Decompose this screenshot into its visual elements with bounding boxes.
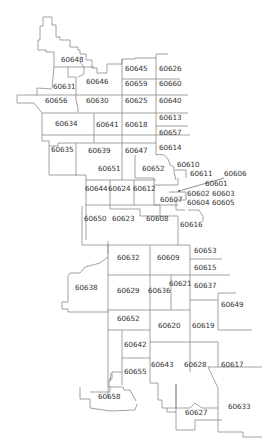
- zip-label-60640: 60640: [159, 97, 181, 104]
- zip-label-60649: 60649: [221, 301, 243, 308]
- zip-label-60607: 60607: [160, 196, 182, 203]
- zip-label-60604: 60604: [187, 199, 209, 206]
- zip-label-60616: 60616: [180, 221, 202, 228]
- zip-label-60626: 60626: [159, 65, 181, 72]
- zip-label-60634: 60634: [55, 120, 77, 127]
- zip-label-60643: 60643: [151, 361, 173, 368]
- zip-label-60642: 60642: [124, 341, 146, 348]
- zip-label-60632: 60632: [117, 254, 139, 261]
- zip-label-60628: 60628: [184, 361, 206, 368]
- zip-label-60644: 60644: [85, 185, 107, 192]
- zip-label-60627: 60627: [185, 409, 207, 416]
- zip-label-60636: 60636: [148, 287, 170, 294]
- zip-label-60658: 60658: [98, 393, 120, 400]
- zip-label-60652: 60652: [117, 315, 139, 322]
- zip-label-60660: 60660: [159, 80, 181, 87]
- zip-label-60648: 60648: [61, 56, 83, 63]
- zip-label-60652: 60652: [142, 165, 164, 172]
- zip-label-60651: 60651: [98, 165, 120, 172]
- zip-label-60619: 60619: [192, 322, 214, 329]
- zip-label-60612: 60612: [133, 185, 155, 192]
- zip-label-60637: 60637: [194, 282, 216, 289]
- zip-label-60601: 60601: [205, 180, 227, 187]
- zip-label-60630: 60630: [86, 97, 108, 104]
- zip-label-60647: 60647: [125, 147, 147, 154]
- zip-label-60620: 60620: [158, 322, 180, 329]
- zip-label-60610: 60610: [177, 161, 199, 168]
- zip-label-60603: 60603: [212, 190, 234, 197]
- zip-label-60623: 60623: [112, 215, 134, 222]
- zip-label-60631: 60631: [53, 83, 75, 90]
- zip-label-60621: 60621: [169, 280, 191, 287]
- zip-label-60646: 60646: [86, 78, 108, 85]
- zip-label-60605: 60605: [212, 199, 234, 206]
- zip-label-60655: 60655: [124, 368, 146, 375]
- zip-label-60618: 60618: [125, 121, 147, 128]
- leader-dot-60606: [178, 190, 180, 192]
- zip-label-60624: 60624: [108, 185, 130, 192]
- zip-label-60608: 60608: [146, 215, 168, 222]
- zip-label-60613: 60613: [159, 114, 181, 121]
- zip-label-60609: 60609: [157, 254, 179, 261]
- zip-label-60641: 60641: [96, 121, 118, 128]
- zip-label-60615: 60615: [194, 264, 216, 271]
- zip-label-60639: 60639: [88, 147, 110, 154]
- zip-label-60650: 60650: [84, 215, 106, 222]
- zip-label-60611: 60611: [190, 170, 212, 177]
- zip-label-60657: 60657: [159, 129, 181, 136]
- zip-label-60638: 60638: [75, 284, 97, 291]
- zip-label-60659: 60659: [125, 80, 147, 87]
- zip-label-60617: 60617: [221, 361, 243, 368]
- zip-label-60614: 60614: [159, 144, 181, 151]
- zip-label-60602: 60602: [187, 190, 209, 197]
- zip-label-60606: 60606: [224, 170, 246, 177]
- zip-label-60653: 60653: [194, 247, 216, 254]
- zip-label-60656: 60656: [45, 97, 67, 104]
- zip-label-60625: 60625: [125, 97, 147, 104]
- zip-label-60629: 60629: [117, 287, 139, 294]
- zip-label-60645: 60645: [125, 65, 147, 72]
- zip-label-60635: 60635: [51, 146, 73, 153]
- zip-label-60633: 60633: [228, 403, 250, 410]
